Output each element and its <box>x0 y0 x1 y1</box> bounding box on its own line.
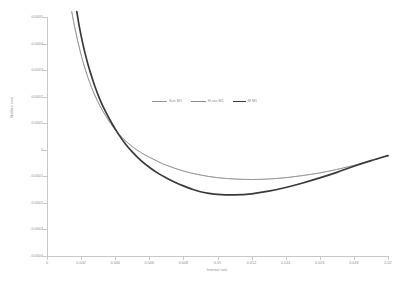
legend-item[interactable]: H-ron M1 <box>191 99 224 104</box>
legend-swatch <box>152 101 167 102</box>
chart-container: 0.00050.00040.00030.00020.00010-0.0001-0… <box>0 0 395 281</box>
legend-swatch <box>233 101 246 103</box>
legend-label: Sun M1 <box>169 99 182 104</box>
data-curves <box>0 0 395 281</box>
legend-item[interactable]: M M1 <box>233 99 257 104</box>
series-line <box>72 12 388 180</box>
series-line <box>72 12 388 180</box>
legend-swatch <box>191 101 206 102</box>
legend-item[interactable]: Sun M1 <box>152 99 182 104</box>
legend-label: M M1 <box>248 99 257 104</box>
chart-legend: Sun M1H-ron M1M M1 <box>152 99 257 104</box>
legend-label: H-ron M1 <box>208 99 224 104</box>
